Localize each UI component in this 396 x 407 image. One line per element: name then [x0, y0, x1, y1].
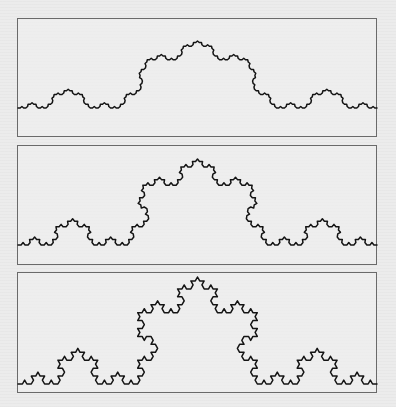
koch-curve-3: [18, 273, 378, 394]
koch-curve-panel-3: [17, 272, 377, 393]
koch-curve-2: [18, 146, 378, 266]
koch-curve-1: [18, 19, 378, 138]
koch-curve-panel-1: [17, 18, 377, 137]
koch-curve-panel-2: [17, 145, 377, 265]
